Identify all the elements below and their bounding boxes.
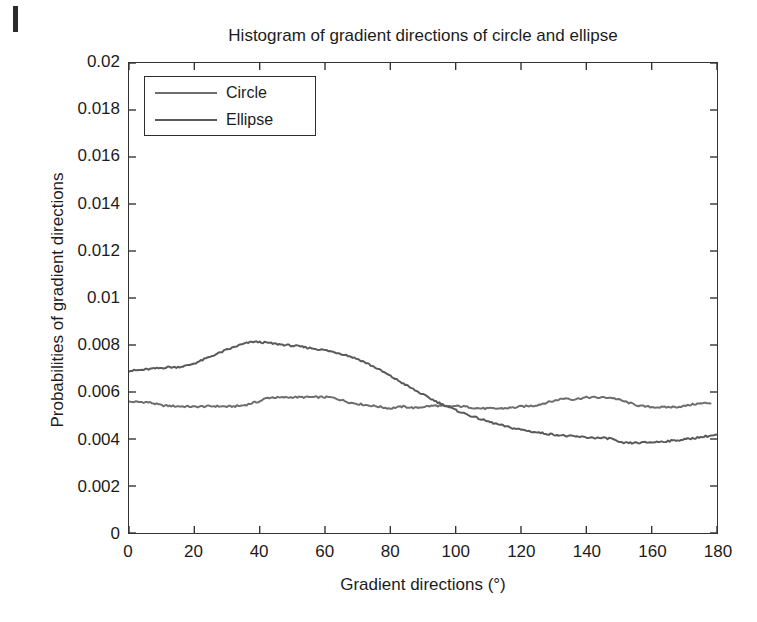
x-axis-title: Gradient directions (°) <box>128 575 718 595</box>
legend-line-icon-circle <box>155 92 217 94</box>
series-line-ellipse <box>129 341 717 443</box>
y-tick-label: 0.016 <box>77 146 120 166</box>
y-tick-label: 0.004 <box>77 430 120 450</box>
y-tick-label: 0.008 <box>77 335 120 355</box>
x-tick-label: 160 <box>638 542 666 562</box>
x-tick-label: 40 <box>250 542 269 562</box>
legend-line-icon-ellipse <box>155 119 217 121</box>
x-tick-label: 140 <box>573 542 601 562</box>
y-tick-label: 0.02 <box>87 52 120 72</box>
y-axis-title: Probabilities of gradient directions <box>48 90 68 510</box>
y-tick-label: 0.018 <box>77 99 120 119</box>
x-tick-label: 60 <box>315 542 334 562</box>
x-axis-tick-labels: 020406080100120140160180 <box>128 542 718 568</box>
x-tick-label: 80 <box>381 542 400 562</box>
y-tick-label: 0.014 <box>77 194 120 214</box>
legend: Circle Ellipse <box>144 76 316 136</box>
y-tick-label: 0.01 <box>87 288 120 308</box>
x-tick-label: 100 <box>442 542 470 562</box>
page-title: Histogram of gradient directions of circ… <box>128 26 718 46</box>
legend-item-circle: Circle <box>145 79 315 106</box>
y-tick-label: 0.002 <box>77 477 120 497</box>
series-line-circle <box>129 396 710 409</box>
scan-artifact-mark <box>13 6 18 32</box>
legend-label-circle: Circle <box>226 84 267 102</box>
x-tick-label: 0 <box>123 542 132 562</box>
x-tick-label: 20 <box>184 542 203 562</box>
y-tick-label: 0.012 <box>77 241 120 261</box>
legend-item-ellipse: Ellipse <box>145 106 315 133</box>
y-tick-label: 0 <box>111 524 120 544</box>
legend-label-ellipse: Ellipse <box>226 111 273 129</box>
x-tick-label: 180 <box>704 542 732 562</box>
x-tick-label: 120 <box>507 542 535 562</box>
y-tick-label: 0.006 <box>77 382 120 402</box>
figure-canvas: Histogram of gradient directions of circ… <box>0 0 757 622</box>
